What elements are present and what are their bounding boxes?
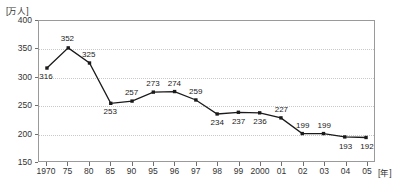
y-axis-tick-mark: [35, 20, 38, 21]
plot-area: [38, 20, 375, 162]
data-point-label: 316: [39, 72, 52, 81]
data-point-label: 237: [232, 117, 245, 126]
data-point-label: 259: [189, 87, 202, 96]
x-axis-tick-label: 96: [170, 166, 179, 176]
data-point-label: 273: [146, 79, 159, 88]
x-axis-tick-label: 90: [127, 166, 136, 176]
y-axis-tick-label: 350: [4, 43, 32, 53]
data-point-label: 325: [82, 50, 95, 59]
data-point-label: 227: [275, 105, 288, 114]
x-axis-tick-label: 02: [298, 166, 307, 176]
x-axis-tick-label: 80: [84, 166, 93, 176]
series-line: [39, 21, 374, 161]
data-point-label: 192: [360, 142, 373, 151]
x-axis-tick-label: 05: [362, 166, 371, 176]
y-axis-tick-label: 300: [4, 72, 32, 82]
y-axis-tick-mark: [35, 134, 38, 135]
data-point-label: 274: [168, 79, 181, 88]
data-point-label: 234: [211, 118, 224, 127]
x-axis-tick-label: 75: [63, 166, 72, 176]
x-axis-tick-label: 04: [341, 166, 350, 176]
y-axis-tick-mark: [35, 77, 38, 78]
x-axis-tick-label: 95: [148, 166, 157, 176]
x-axis-unit-label: [年]: [378, 166, 392, 178]
data-point-label: 257: [125, 88, 138, 97]
line-chart: [万人] 150200250300350400 1970758085909596…: [0, 0, 393, 189]
data-point-label: 193: [339, 142, 352, 151]
data-point-label: 253: [104, 107, 117, 116]
y-axis-tick-label: 200: [4, 129, 32, 139]
y-axis-tick-mark: [35, 48, 38, 49]
data-point-label: 352: [61, 34, 74, 43]
x-axis-tick-label: 01: [277, 166, 286, 176]
data-point-label: 236: [253, 117, 266, 126]
y-axis-tick-mark: [35, 105, 38, 106]
x-axis-tick-label: 03: [319, 166, 328, 176]
x-axis-tick-label: 98: [212, 166, 221, 176]
x-axis-tick-label: 85: [105, 166, 114, 176]
y-axis-tick-label: 150: [4, 157, 32, 167]
data-point-label: 199: [318, 121, 331, 130]
x-axis-tick-label: 99: [234, 166, 243, 176]
x-axis-tick-label: 97: [191, 166, 200, 176]
y-axis-tick-label: 400: [4, 15, 32, 25]
y-axis-tick-label: 250: [4, 100, 32, 110]
x-axis-tick-label: 1970: [37, 166, 56, 176]
x-axis-tick-label: 2000: [251, 166, 270, 176]
y-axis-tick-mark: [35, 162, 38, 163]
data-point-label: 199: [296, 121, 309, 130]
